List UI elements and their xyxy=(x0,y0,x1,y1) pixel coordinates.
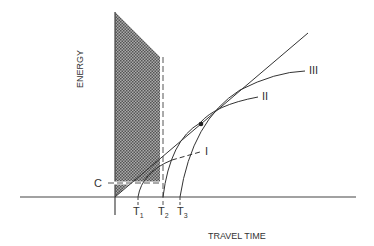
curve-iii xyxy=(180,71,305,197)
y-axis-label: ENERGY xyxy=(75,50,85,88)
curve-ii-label: II xyxy=(262,90,268,102)
x-axis-label: TRAVEL TIME xyxy=(208,231,266,241)
t1-label: T1 xyxy=(133,205,144,219)
intersection-dot xyxy=(199,122,204,127)
curve-ii xyxy=(163,97,258,197)
c-label: C xyxy=(94,177,102,189)
curve-iii-label: III xyxy=(309,64,318,76)
hatched-region xyxy=(115,12,160,197)
curve-i-label: I xyxy=(205,145,208,157)
t3-label: T3 xyxy=(177,205,188,219)
t2-label: T2 xyxy=(158,205,169,219)
